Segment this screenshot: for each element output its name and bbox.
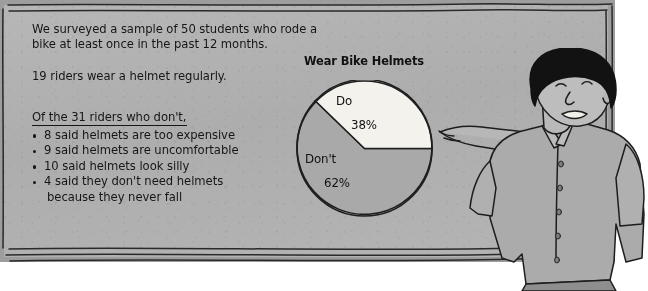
survey-intro-paragraph: We surveyed a sample of 50 students who …	[32, 22, 337, 52]
list-item-text: 8 said helmets are too expensive	[44, 128, 235, 142]
list-item: 8 said helmets are too expensive	[32, 128, 282, 143]
list-item-continuation: because they never fall	[44, 190, 282, 205]
list-item-text: 4 said they don't need helmets	[44, 174, 223, 188]
pie-value-do: 38%	[351, 118, 377, 132]
list-item: 9 said helmets are uncomfortable	[32, 143, 282, 158]
helmet-wearers-statement: 19 riders wear a helmet regularly.	[32, 69, 332, 84]
illustration-scene: We surveyed a sample of 50 students who …	[0, 0, 648, 291]
presenter-figure	[430, 48, 648, 291]
bullet-list-heading-text: Of the 31 riders who don't,	[32, 110, 187, 126]
pie-chart: Do 38% Don't 62%	[296, 80, 433, 217]
shirt-sleeve-left	[470, 161, 496, 216]
bullet-list-heading: Of the 31 riders who don't,	[32, 110, 187, 125]
list-item: 10 said helmets look silly	[32, 159, 282, 174]
chart-title: Wear Bike Helmets	[288, 54, 440, 68]
list-item: 4 said they don't need helmets because t…	[32, 174, 282, 205]
list-item-text: 9 said helmets are uncomfortable	[44, 143, 238, 157]
pie-value-dont: 62%	[324, 176, 350, 190]
list-item-text: 10 said helmets look silly	[44, 159, 189, 173]
pie-label-dont: Don't	[305, 152, 336, 166]
pie-label-do: Do	[336, 94, 352, 108]
reasons-bullet-list: 8 said helmets are too expensive 9 said …	[32, 128, 282, 205]
